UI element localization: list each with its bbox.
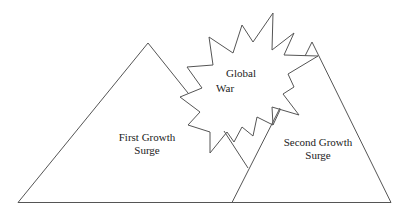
second-growth-label-line1: Second Growth [282,136,354,149]
diagram-canvas [0,0,405,214]
second-growth-label: Second Growth Surge [282,136,354,162]
first-growth-label-line2: Surge [116,144,178,157]
first-growth-triangle-edge [224,131,248,168]
second-growth-triangle-inner-edge [273,110,280,125]
second-growth-label-line2: Surge [282,149,354,162]
second-growth-triangle-right-edge [305,42,391,203]
global-war-label-line2: War [216,82,256,95]
first-growth-label-line1: First Growth [116,131,178,144]
first-growth-triangle [18,43,188,203]
global-war-label: Global War [216,67,256,95]
global-war-label-line1: Global [216,67,256,80]
first-growth-label: First Growth Surge [116,131,178,157]
